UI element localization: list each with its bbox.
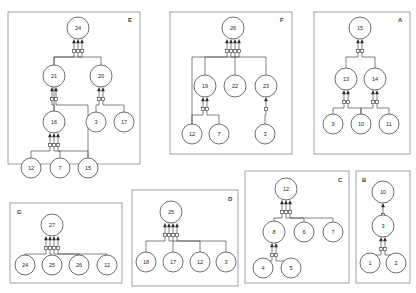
edge-line (169, 237, 173, 252)
edge-line (103, 101, 124, 112)
graph-node[interactable]: 11 (379, 114, 399, 134)
graph-node[interactable]: 12 (182, 124, 202, 144)
graph-node[interactable]: 10 (351, 114, 371, 134)
junction-box (356, 49, 359, 52)
node-label: 16 (51, 119, 57, 125)
graph-node[interactable]: 10 (372, 181, 394, 203)
edge-line (290, 214, 333, 222)
junction-box (171, 233, 174, 236)
arrowhead-icon (233, 39, 237, 43)
graph-node[interactable]: 20 (90, 65, 112, 87)
graph-node[interactable]: 14 (364, 68, 386, 90)
graph-node[interactable]: 18 (136, 252, 156, 272)
junction-box (237, 49, 240, 52)
graph-node[interactable]: 12 (190, 252, 210, 272)
junction-box (54, 97, 57, 100)
graph-node[interactable]: 22 (224, 75, 246, 97)
node-label: 26 (230, 25, 236, 31)
panel-g: G2724252612 (10, 203, 122, 283)
panel-letter: C (338, 177, 343, 183)
graph-node[interactable]: 8 (263, 221, 285, 243)
graph-node[interactable]: 15 (349, 17, 371, 39)
graph-node[interactable]: 17 (163, 252, 183, 272)
junction-box (80, 49, 83, 52)
arrowhead-icon (76, 39, 80, 43)
junction-box (52, 143, 55, 146)
graph-node[interactable]: 5 (281, 258, 301, 278)
node-label: 27 (49, 222, 55, 228)
node-label: 3 (94, 119, 97, 125)
graph-node[interactable]: 21 (43, 65, 65, 87)
arrowhead-icon (48, 236, 52, 240)
graph-node[interactable]: 13 (335, 68, 357, 90)
graph-node[interactable]: 12 (275, 178, 297, 200)
junction-box (360, 49, 363, 52)
graph-node[interactable]: 3 (255, 124, 275, 144)
graph-node[interactable]: 12 (21, 158, 41, 178)
arrowhead-icon (225, 39, 229, 43)
node-label: 5 (289, 265, 292, 271)
graph-node[interactable]: 2 (386, 253, 406, 273)
graph-node[interactable]: 15 (78, 158, 98, 178)
node-label: 2 (394, 260, 397, 266)
edge-line (205, 53, 227, 75)
graph-node[interactable]: 24 (67, 17, 89, 39)
graph-node[interactable]: 3 (216, 252, 236, 272)
multi-panel-graph-figure: E2421201631712715F261922231273A151314910… (0, 0, 416, 293)
graph-node[interactable]: 24 (15, 255, 35, 275)
graph-node[interactable]: 4 (253, 258, 273, 278)
graph-node[interactable]: 16 (43, 111, 65, 133)
node-label: 17 (170, 259, 176, 265)
node-label: 20 (98, 73, 104, 79)
arrowhead-icon (72, 39, 76, 43)
graph-node[interactable]: 3 (372, 215, 394, 237)
edge-line (231, 53, 235, 75)
graph-node[interactable]: 7 (323, 222, 343, 242)
edge-line (31, 147, 50, 158)
junction-box (280, 210, 283, 213)
arrowhead-icon (163, 223, 167, 227)
node-label: 14 (372, 76, 378, 82)
graph-node[interactable]: 7 (209, 124, 229, 144)
node-label: 7 (331, 229, 334, 235)
node-label: 12 (197, 259, 203, 265)
node-label: 3 (381, 223, 384, 229)
node-label: 15 (85, 165, 91, 171)
graph-node[interactable]: 1 (360, 253, 380, 273)
graph-node[interactable]: 25 (160, 201, 182, 223)
junction-box (52, 246, 55, 249)
node-label: 23 (263, 83, 269, 89)
graph-node[interactable]: 25 (42, 255, 62, 275)
arrowhead-icon (52, 236, 56, 240)
graph-node[interactable]: 9 (323, 114, 343, 134)
node-label: 4 (261, 265, 264, 271)
edges-group (146, 223, 226, 252)
graph-node[interactable]: 19 (194, 75, 216, 97)
graph-node[interactable]: 26 (222, 17, 244, 39)
graph-node[interactable]: 27 (41, 214, 63, 236)
panel-e: E2421201631712715 (8, 12, 140, 178)
edge-line (235, 53, 266, 75)
junction-box (371, 100, 374, 103)
node-label: 7 (58, 165, 61, 171)
arrowhead-icon (54, 87, 58, 91)
panel-f: F261922231273 (170, 12, 292, 154)
arrowhead-icon (48, 133, 52, 137)
graph-node[interactable]: 23 (255, 75, 277, 97)
junction-box (225, 49, 228, 52)
graph-node[interactable]: 6 (294, 222, 314, 242)
graph-node[interactable]: 12 (97, 255, 117, 275)
junction-box (383, 247, 386, 250)
graph-node[interactable]: 26 (69, 255, 89, 275)
edge-line (50, 250, 52, 255)
node-label: 12 (283, 186, 289, 192)
arrowhead-icon (97, 87, 101, 91)
panel-letter: A (398, 17, 403, 23)
graph-node[interactable]: 17 (114, 112, 134, 132)
arrowhead-icon (280, 200, 284, 204)
graph-node[interactable]: 3 (86, 112, 106, 132)
junction-box (167, 233, 170, 236)
panel-letter: G (17, 209, 22, 215)
graph-node[interactable]: 7 (50, 158, 70, 178)
node-label: 19 (202, 83, 208, 89)
